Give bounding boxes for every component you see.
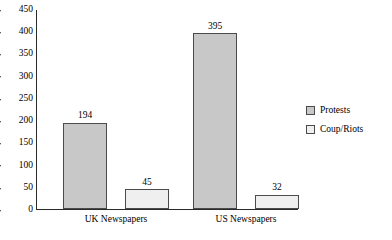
bar-value-label: 194 bbox=[78, 111, 92, 121]
bar-protests-uk[interactable]: 194 bbox=[63, 123, 107, 209]
legend: Protests Coup/Riots bbox=[306, 106, 363, 143]
y-axis-tick: 300 bbox=[1, 72, 33, 82]
y-axis-tick-mark bbox=[0, 32, 1, 33]
bar-protests-us[interactable]: 395 bbox=[193, 33, 237, 209]
y-axis-tick: 250 bbox=[1, 94, 33, 104]
y-axis-tick-label: 350 bbox=[19, 49, 33, 59]
y-axis-tick-label: 400 bbox=[19, 26, 33, 36]
bar-chart: 0 50 100 150 200 250 300 350 bbox=[0, 0, 392, 240]
y-axis-tick-label: 100 bbox=[19, 160, 33, 170]
y-axis-tick: 0 bbox=[1, 205, 33, 215]
y-axis-tick-mark bbox=[0, 166, 1, 167]
plot-area: 0 50 100 150 200 250 300 350 bbox=[36, 10, 298, 210]
y-axis-tick-label: 200 bbox=[19, 115, 33, 125]
y-axis-tick-mark bbox=[0, 77, 1, 78]
y-axis-tick: 150 bbox=[1, 139, 33, 149]
y-axis-tick-mark bbox=[0, 99, 1, 100]
y-axis-tick-mark bbox=[0, 10, 1, 11]
bar-value-label: 45 bbox=[142, 178, 152, 188]
y-axis-tick-mark bbox=[0, 210, 1, 211]
y-axis-tick: 450 bbox=[1, 5, 33, 15]
y-axis-tick-label: 0 bbox=[28, 204, 33, 214]
y-axis-tick-mark bbox=[0, 121, 1, 122]
bar-coup-riots-us[interactable]: 32 bbox=[255, 195, 299, 209]
y-axis-tick: 200 bbox=[1, 116, 33, 126]
legend-item-coup-riots[interactable]: Coup/Riots bbox=[306, 125, 363, 135]
y-axis-tick: 350 bbox=[1, 50, 33, 60]
legend-swatch-icon bbox=[306, 106, 315, 115]
legend-label: Protests bbox=[320, 106, 350, 116]
y-axis-tick-label: 300 bbox=[19, 71, 33, 81]
y-axis-tick-mark bbox=[0, 54, 1, 55]
legend-label: Coup/Riots bbox=[320, 125, 363, 135]
y-axis-tick: 400 bbox=[1, 27, 33, 37]
bar-value-label: 395 bbox=[208, 22, 222, 32]
bar-value-label: 32 bbox=[272, 183, 282, 193]
y-axis-tick: 50 bbox=[1, 183, 33, 193]
y-axis-tick-label: 150 bbox=[19, 138, 33, 148]
y-axis-tick-mark bbox=[0, 143, 1, 144]
legend-item-protests[interactable]: Protests bbox=[306, 106, 363, 116]
y-axis-tick: 100 bbox=[1, 161, 33, 171]
legend-swatch-icon bbox=[306, 125, 315, 134]
x-axis-label-us-newspapers: US Newspapers bbox=[216, 215, 277, 225]
y-axis-tick-label: 50 bbox=[24, 182, 34, 192]
y-axis-tick-label: 450 bbox=[19, 4, 33, 14]
x-axis-label-uk-newspapers: UK Newspapers bbox=[85, 215, 148, 225]
y-axis-tick-mark bbox=[0, 188, 1, 189]
bar-coup-riots-uk[interactable]: 45 bbox=[125, 189, 169, 209]
y-axis-tick-label: 250 bbox=[19, 93, 33, 103]
